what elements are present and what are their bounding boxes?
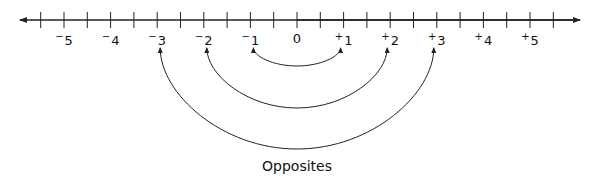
sign-symbol: − (148, 31, 156, 42)
opposite-arc-right (297, 48, 341, 66)
tick-label: −3 (148, 31, 166, 48)
tick-number: 3 (158, 33, 166, 48)
sign-symbol: + (475, 31, 483, 42)
sign-symbol: + (428, 31, 436, 42)
opposite-arc-left (207, 48, 297, 108)
tick-number: 4 (484, 33, 492, 48)
sign-symbol: − (55, 31, 63, 42)
sign-symbol: − (242, 31, 250, 42)
sign-symbol: + (335, 31, 343, 42)
tick-label: −2 (195, 31, 213, 48)
tick-label: 0 (293, 31, 301, 46)
tick-label: +2 (381, 31, 399, 48)
tick-number: 0 (293, 31, 301, 46)
tick-number: 5 (65, 33, 73, 48)
tick-number: 2 (391, 33, 399, 48)
tick-number: 3 (437, 33, 445, 48)
opposite-arc-right (297, 48, 387, 108)
sign-symbol: − (102, 31, 110, 42)
tick-label: −4 (102, 31, 120, 48)
tick-label: −1 (242, 31, 260, 48)
tick-label: +5 (521, 31, 539, 48)
tick-number: 2 (204, 33, 212, 48)
sign-symbol: − (195, 31, 203, 42)
caption-opposites: Opposites (262, 158, 332, 174)
sign-symbol: + (381, 31, 389, 42)
number-line-svg (0, 0, 598, 183)
tick-number: 4 (111, 33, 119, 48)
tick-label: −5 (55, 31, 73, 48)
tick-label: +4 (475, 31, 493, 48)
opposite-arcs (160, 48, 434, 149)
tick-number: 1 (344, 33, 352, 48)
tick-label: +1 (335, 31, 353, 48)
tick-number: 1 (251, 33, 259, 48)
number-line-diagram: −5−4−3−2−10+1+2+3+4+5 Opposites (0, 0, 598, 183)
tick-label: +3 (428, 31, 446, 48)
tick-number: 5 (531, 33, 539, 48)
sign-symbol: + (521, 31, 529, 42)
opposite-arc-left (253, 48, 297, 66)
